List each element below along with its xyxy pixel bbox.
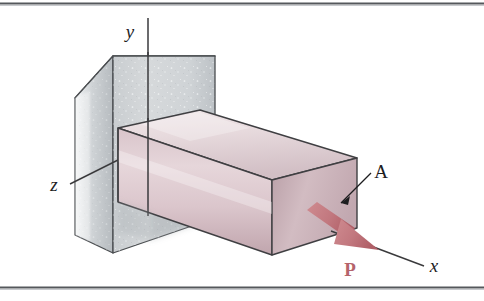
- cross-section-label: A: [374, 161, 388, 182]
- force-label: P: [344, 259, 356, 280]
- axial-load-diagram: y z x A P: [0, 0, 484, 301]
- figure-container: y z x A P: [0, 0, 484, 301]
- x-axis-label: x: [429, 255, 439, 276]
- frame-bottom-rule: [0, 288, 484, 290]
- wall-edge-highlight: [75, 91, 90, 241]
- y-axis-label: y: [124, 21, 135, 42]
- z-axis-label: z: [49, 174, 58, 195]
- frame-top-rule: [0, 4, 484, 6]
